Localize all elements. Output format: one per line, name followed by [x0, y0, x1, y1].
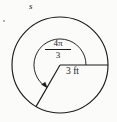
- angle-arc-arrowhead: [42, 82, 47, 87]
- central-angle-numerator: 4π: [45, 39, 71, 50]
- terminal-radius-line: [36, 65, 60, 107]
- arc-length-label: s: [29, 2, 33, 11]
- circle-sector-figure: s 4π 3 3 ft: [0, 0, 117, 122]
- radius-label: 3 ft: [66, 67, 79, 77]
- central-angle-label: 4π 3: [45, 39, 71, 61]
- scan-artifact-speck: [3, 20, 5, 22]
- figure-drawing: [0, 0, 117, 122]
- central-angle-denominator: 3: [45, 50, 71, 61]
